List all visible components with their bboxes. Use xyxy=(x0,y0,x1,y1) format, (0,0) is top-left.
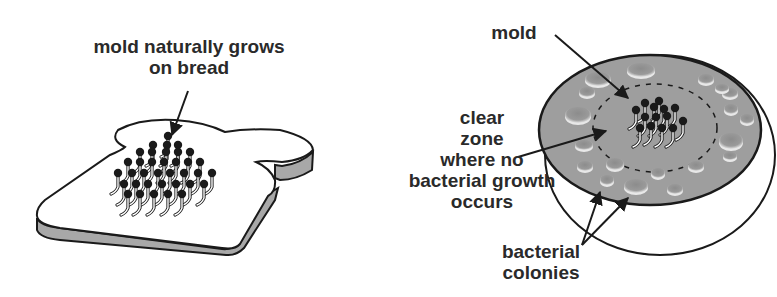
mold-sporangium xyxy=(164,190,172,198)
bacterial-colony xyxy=(606,158,624,170)
bacterial-colony xyxy=(667,184,683,194)
mold-sporangium xyxy=(132,180,140,188)
mold-sporangium xyxy=(641,99,649,107)
diagram-stage: mold naturally grows on bread mold clear… xyxy=(0,0,777,297)
bacterial-colony xyxy=(600,175,614,185)
mold-sporangium xyxy=(150,190,158,198)
mold-sporangium xyxy=(164,132,172,140)
mold-sporangium xyxy=(124,190,132,198)
colonies-label: bacterial colonies xyxy=(486,241,596,283)
mold-sporangium xyxy=(178,190,186,198)
bacterial-colony xyxy=(719,133,743,149)
mold-sporangium xyxy=(174,148,182,156)
mold-sporangium xyxy=(172,158,180,166)
clear-zone-line-1: clear xyxy=(408,107,556,128)
mold-sporangium xyxy=(172,180,180,188)
bacterial-colony xyxy=(698,74,714,84)
mold-sporangium xyxy=(647,122,655,130)
bacterial-colony xyxy=(715,84,729,92)
mold-sporangium xyxy=(180,169,188,177)
mold-sporangium xyxy=(208,169,216,177)
mold-sporangium xyxy=(120,180,128,188)
bacterial-colony xyxy=(723,152,737,160)
mold-sporangium xyxy=(632,106,640,114)
mold-sporangium xyxy=(148,148,156,156)
mold-sporangium xyxy=(636,124,644,132)
mold-sporangium xyxy=(650,103,658,111)
bacterial-colony xyxy=(579,87,595,97)
mold-sporangium xyxy=(124,158,132,166)
bacterial-colony xyxy=(688,161,704,171)
mold-sporangium xyxy=(160,158,168,166)
mold-sporangium xyxy=(671,104,679,112)
bacterial-colony xyxy=(724,104,738,114)
bread-caption-line-1: mold naturally grows xyxy=(80,36,298,57)
bread-caption-line-2: on bread xyxy=(80,57,298,78)
mold-sporangium xyxy=(128,169,136,177)
mold-sporangium xyxy=(200,180,208,188)
mold-sporangium xyxy=(658,124,666,132)
mold-label: mold xyxy=(484,22,544,43)
bacterial-colony xyxy=(627,63,655,77)
mold-sporangium xyxy=(641,113,649,121)
petri-dish xyxy=(539,55,775,255)
mold-sporangium xyxy=(162,148,170,156)
mold-sporangium xyxy=(652,113,660,121)
mold-sporangium xyxy=(154,169,162,177)
colonies-line-2: colonies xyxy=(486,262,596,283)
mold-sporangium xyxy=(148,158,156,166)
mold-sporangium xyxy=(194,169,202,177)
bacterial-colony xyxy=(624,179,648,193)
clear-zone-line-3: where no xyxy=(408,149,556,170)
bread-caption: mold naturally grows on bread xyxy=(80,36,298,78)
mold-sporangium xyxy=(158,180,166,188)
mold-sporangium xyxy=(136,158,144,166)
mold-sporangium xyxy=(136,190,144,198)
mold-sporangium xyxy=(144,180,152,188)
mold-sporangium xyxy=(663,112,671,120)
clear-zone-line-4: bacterial growth xyxy=(408,170,556,191)
colonies-line-1: bacterial xyxy=(486,241,596,262)
bacterial-colony xyxy=(577,161,593,171)
mold-sporangium xyxy=(140,169,148,177)
bacterial-colony xyxy=(651,168,665,178)
mold-sporangium xyxy=(669,124,677,132)
mold-sporangium xyxy=(196,158,204,166)
mold-sporangium xyxy=(186,148,194,156)
mold-sporangium xyxy=(186,180,194,188)
mold-sporangium xyxy=(679,117,687,125)
bacterial-colony xyxy=(565,107,591,123)
clear-zone-label: clear zone where no bacterial growth occ… xyxy=(408,107,556,212)
mold-sporangium xyxy=(166,169,174,177)
bacterial-colony xyxy=(740,114,754,124)
mold-sporangium xyxy=(114,169,122,177)
clear-zone-line-5: occurs xyxy=(408,191,556,212)
bacterial-colony xyxy=(575,140,593,150)
clear-zone-line-2: zone xyxy=(408,128,556,149)
mold-sporangium xyxy=(184,158,192,166)
mold-sporangium xyxy=(136,148,144,156)
